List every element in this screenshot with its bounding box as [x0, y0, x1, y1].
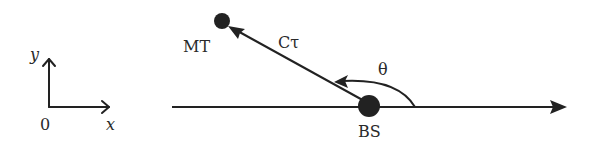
x-axis-label: x — [106, 117, 115, 133]
base-station-node — [358, 95, 380, 117]
distance-label: Cτ — [278, 35, 299, 51]
angle-label: θ — [378, 62, 388, 78]
axes-legend-icon — [43, 59, 109, 113]
mobile-terminal-node — [214, 13, 230, 29]
vector-arrowhead-icon — [228, 26, 245, 39]
mt-label: MT — [183, 39, 210, 55]
diagram-graphics — [0, 0, 599, 153]
bs-label: BS — [358, 124, 381, 140]
origin-label: 0 — [40, 117, 50, 133]
diagram-canvas: y 0 x MT Cτ θ BS — [0, 0, 599, 153]
y-axis-label: y — [30, 47, 39, 63]
